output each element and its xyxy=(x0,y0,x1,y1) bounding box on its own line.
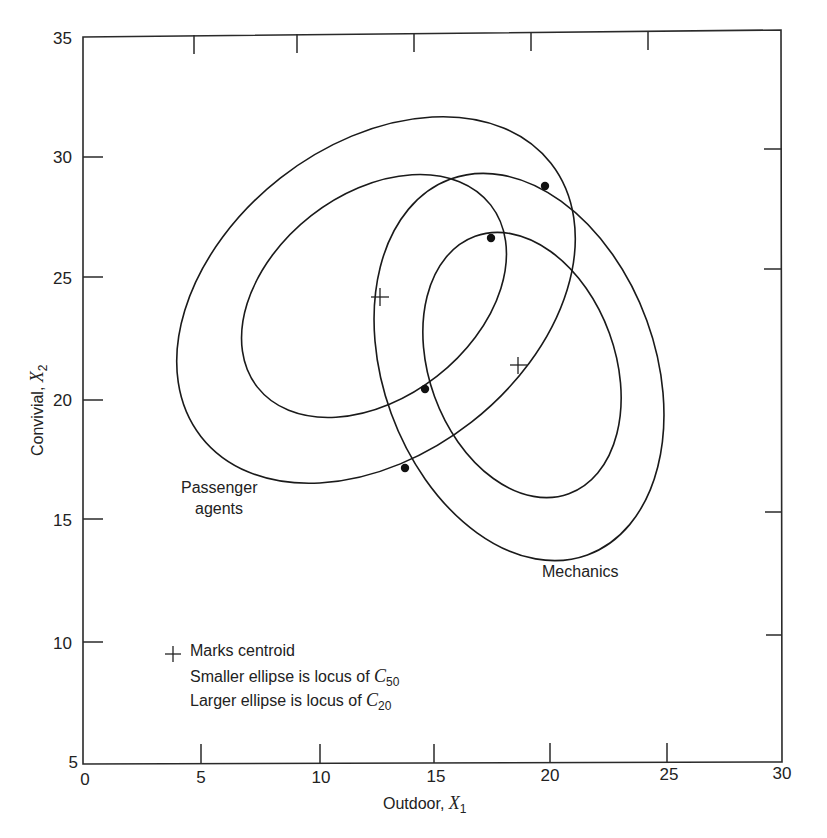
legend: Marks centroid Smaller ellipse is locus … xyxy=(165,642,400,713)
svg-text:20: 20 xyxy=(541,766,560,785)
y-axis-title: Convivial, X2 xyxy=(27,364,50,456)
svg-text:30: 30 xyxy=(773,764,792,783)
mechanics-centroid-marker xyxy=(510,357,527,374)
svg-text:5: 5 xyxy=(196,768,205,787)
svg-text:10: 10 xyxy=(312,768,331,787)
y-axis-ticks xyxy=(83,149,782,642)
passenger-c50-ellipse xyxy=(195,125,554,468)
svg-text:15: 15 xyxy=(53,511,72,530)
svg-text:0: 0 xyxy=(80,770,89,789)
mechanics-ellipses xyxy=(323,133,715,602)
x-axis-title: Outdoor, X1 xyxy=(383,793,467,816)
chart-canvas: 35 30 25 20 15 10 5 0 5 10 15 20 25 30 O… xyxy=(0,0,827,838)
legend-centroid-marker xyxy=(165,646,181,662)
passenger-agents-label-line2: agents xyxy=(195,500,243,517)
legend-line-centroid: Marks centroid xyxy=(190,642,295,659)
svg-text:5: 5 xyxy=(69,753,78,772)
legend-line-c50: Smaller ellipse is locus of C50 xyxy=(190,666,400,689)
svg-text:15: 15 xyxy=(427,767,446,786)
x-tick-labels: 0 5 10 15 20 25 30 xyxy=(80,764,791,789)
y-tick-labels: 35 30 25 20 15 10 5 xyxy=(53,29,78,772)
passenger-centroid-marker xyxy=(371,288,389,306)
passenger-agents-label-line1: Passenger xyxy=(181,479,258,496)
legend-line-c20: Larger ellipse is locus of C20 xyxy=(190,690,392,713)
plot-frame xyxy=(83,30,782,764)
mechanics-label: Mechanics xyxy=(542,563,618,580)
svg-text:10: 10 xyxy=(53,634,72,653)
svg-text:35: 35 xyxy=(53,29,72,48)
svg-text:25: 25 xyxy=(660,765,679,784)
svg-text:20: 20 xyxy=(53,391,72,410)
svg-text:30: 30 xyxy=(53,148,72,167)
svg-text:25: 25 xyxy=(53,269,72,288)
mechanics-c20-ellipse xyxy=(323,133,715,602)
